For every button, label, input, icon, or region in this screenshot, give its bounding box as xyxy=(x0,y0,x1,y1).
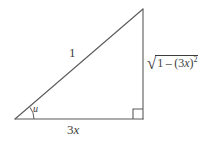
radical-expression: √1 – (3x)2 xyxy=(147,55,198,72)
minus-sign: – xyxy=(166,56,172,70)
radicand-one: 1 xyxy=(157,56,163,70)
exponent-two: 2 xyxy=(193,55,197,64)
hypotenuse-label: 1 xyxy=(69,46,76,59)
right-angle-marker xyxy=(133,109,143,119)
base-label: 3x xyxy=(67,123,79,136)
triangle-figure: 1 3x u √1 – (3x)2 xyxy=(0,0,209,143)
base-variable: x xyxy=(74,122,80,137)
angle-label: u xyxy=(33,104,38,114)
opposite-side-label: √1 – (3x)2 xyxy=(147,55,198,72)
radicand: 1 – (3x)2 xyxy=(155,55,198,71)
